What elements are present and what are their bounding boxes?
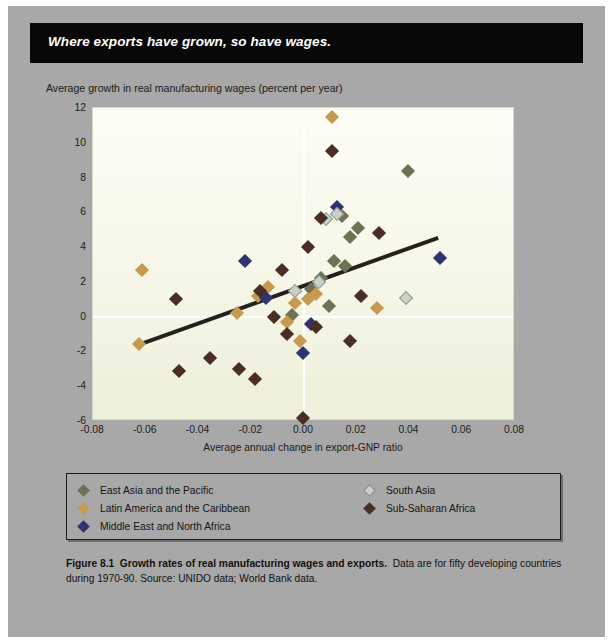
legend-marker-icon [77, 502, 90, 515]
legend-column-right: South AsiaSub-Saharan Africa [365, 481, 555, 517]
plot-area [92, 107, 514, 420]
y-tick-label: 0 [44, 310, 86, 321]
y-tick-label: 4 [44, 241, 86, 252]
y-tick-label: -4 [44, 380, 86, 391]
legend-label: East Asia and the Pacific [100, 485, 213, 496]
trend-line [93, 108, 513, 420]
y-tick-label: 12 [44, 102, 86, 113]
legend-item[interactable]: Sub-Saharan Africa [365, 499, 555, 517]
figure-page: Where exports have grown, so have wages.… [8, 6, 605, 637]
title-banner: Where exports have grown, so have wages. [30, 23, 583, 63]
x-tick-label: 0.08 [484, 424, 544, 435]
y-axis-ticks: 121086420-2-4-6 [42, 107, 86, 420]
y-tick-label: 6 [44, 206, 86, 217]
x-tick-label: -0.06 [115, 424, 175, 435]
legend-label: Latin America and the Caribbean [100, 503, 250, 514]
y-tick-label: 10 [44, 136, 86, 147]
legend-label: Sub-Saharan Africa [386, 503, 475, 514]
banner-title: Where exports have grown, so have wages. [48, 34, 331, 49]
scatter-plot [92, 107, 514, 420]
legend-item[interactable]: South Asia [365, 481, 555, 499]
x-tick-label: 0.00 [273, 424, 333, 435]
y-axis-label: Average growth in real manufacturing wag… [46, 82, 343, 94]
legend-marker-icon [77, 484, 90, 497]
y-tick-label: 2 [44, 275, 86, 286]
y-tick-label: 8 [44, 171, 86, 182]
legend-label: South Asia [386, 485, 435, 496]
legend-marker-icon [363, 502, 376, 515]
caption-figure-number: Figure 8.1 [66, 558, 114, 569]
legend: East Asia and the PacificLatin America a… [66, 473, 561, 540]
y-tick-label: -2 [44, 345, 86, 356]
x-axis-ticks: -0.08-0.06-0.04-0.020.000.020.040.060.08 [92, 424, 514, 440]
legend-item[interactable]: East Asia and the Pacific [79, 481, 359, 499]
legend-column-left: East Asia and the PacificLatin America a… [79, 481, 359, 535]
legend-marker-icon [77, 520, 90, 533]
legend-label: Middle East and North Africa [100, 521, 231, 532]
x-tick-label: -0.02 [220, 424, 280, 435]
x-tick-label: 0.02 [326, 424, 386, 435]
legend-item[interactable]: Middle East and North Africa [79, 517, 359, 535]
x-tick-label: 0.06 [431, 424, 491, 435]
legend-marker-icon [363, 484, 376, 497]
caption-bold-title: Growth rates of real manufacturing wages… [120, 558, 387, 569]
figure-caption: Figure 8.1 Growth rates of real manufact… [66, 557, 566, 586]
x-axis-label: Average annual change in export-GNP rati… [92, 442, 514, 453]
x-tick-label: -0.04 [168, 424, 228, 435]
x-tick-label: -0.08 [62, 424, 122, 435]
legend-item[interactable]: Latin America and the Caribbean [79, 499, 359, 517]
x-tick-label: 0.04 [379, 424, 439, 435]
